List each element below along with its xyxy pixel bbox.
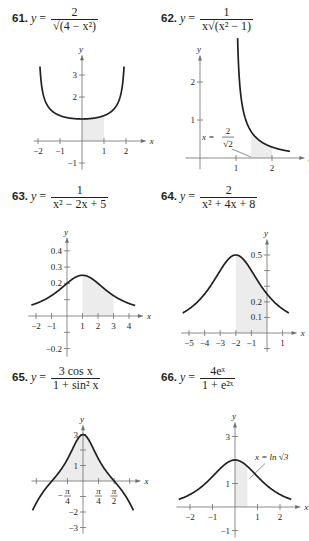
y-tick-label: 0.4 bbox=[51, 246, 63, 256]
y-tick-label: −2 bbox=[68, 507, 78, 517]
y-axis-arrow-icon bbox=[233, 422, 237, 427]
annotation-label: x = bbox=[201, 132, 214, 142]
problem-64: 64. y = 2x² + 4x + 8 xy−5−4−3−2−110.10.2… bbox=[155, 175, 309, 360]
annotation-label: √2 bbox=[223, 139, 232, 149]
x-axis-label: x bbox=[146, 311, 151, 321]
x-axis-arrow-icon bbox=[299, 156, 304, 160]
x-tick-label: −3 bbox=[215, 338, 225, 348]
x-tick-label: 2 bbox=[124, 146, 129, 156]
y-tick-label: −3 bbox=[68, 523, 78, 533]
x-tick-label: π bbox=[65, 486, 70, 496]
problem-66: 66. y = 4eˣ1 + e²ˣ xy−2−112−113x = ln √3 bbox=[155, 360, 309, 541]
problem-62: 62. y = 1x√(x² − 1) xy1212x =2√2 bbox=[155, 0, 309, 175]
y-tick-label: 3 bbox=[73, 70, 78, 80]
graph-63: xy−2−11234−0.20.20.30.4 bbox=[0, 175, 155, 360]
x-tick-label: 2 bbox=[112, 496, 117, 506]
annotation-label: 2 bbox=[226, 126, 231, 136]
x-axis-arrow-icon bbox=[141, 139, 146, 143]
x-tick-label: −5 bbox=[184, 338, 194, 348]
graph-61: xy−2−112−123 bbox=[0, 0, 155, 175]
y-axis-label: y bbox=[263, 228, 268, 238]
y-axis-label: y bbox=[79, 414, 84, 424]
graph-66: xy−2−112−113x = ln √3 bbox=[155, 360, 309, 541]
x-tick-label: 4 bbox=[127, 321, 132, 331]
y-tick-label: 0.2 bbox=[51, 278, 62, 288]
x-tick-label: 1 bbox=[234, 163, 239, 173]
x-tick-label: 1 bbox=[255, 512, 260, 522]
problem-61: 61. y = 2√(4 − x²) xy−2−112−123 bbox=[0, 0, 155, 175]
x-tick-label: 1 bbox=[80, 321, 85, 331]
y-axis-label: y bbox=[231, 411, 236, 421]
y-axis-arrow-icon bbox=[80, 55, 84, 60]
x-axis-arrow-icon bbox=[292, 331, 297, 335]
y-tick-label: 0.3 bbox=[51, 262, 63, 272]
y-axis-label: y bbox=[63, 227, 68, 237]
y-tick-label: 2 bbox=[73, 92, 78, 102]
x-axis-arrow-icon bbox=[135, 479, 140, 483]
x-tick-label: 1 bbox=[280, 338, 285, 348]
graph-62: xy1212x =2√2 bbox=[155, 0, 309, 175]
x-axis-label: x bbox=[303, 502, 308, 512]
x-tick-label: −2 bbox=[185, 512, 195, 522]
annotation-leader bbox=[232, 149, 251, 157]
function-curve bbox=[183, 255, 289, 313]
x-tick-label: 2 bbox=[270, 163, 275, 173]
y-tick-label: 2 bbox=[191, 77, 196, 87]
problem-63: 63. y = 1x² − 2x + 5 xy−2−11234−0.20.20.… bbox=[0, 175, 155, 360]
x-tick-label: −2 bbox=[231, 338, 241, 348]
x-tick-label: π bbox=[96, 486, 101, 496]
x-tick-label: −2 bbox=[31, 321, 41, 331]
x-tick-label: 1 bbox=[102, 146, 107, 156]
x-tick-label: −1 bbox=[208, 512, 218, 522]
x-axis-arrow-icon bbox=[295, 505, 300, 509]
x-axis-label: x bbox=[307, 153, 309, 163]
x-tick-label: −2 bbox=[33, 146, 43, 156]
x-axis-label: x bbox=[143, 476, 148, 486]
x-tick-label: −4 bbox=[200, 338, 210, 348]
y-tick-label: −1 bbox=[67, 158, 77, 168]
y-tick-label: 0.2 bbox=[251, 297, 262, 307]
shaded-region bbox=[83, 275, 114, 316]
y-tick-label: −0.2 bbox=[46, 344, 62, 354]
y-axis-arrow-icon bbox=[65, 238, 69, 243]
x-tick-label: −1 bbox=[55, 146, 65, 156]
x-axis-arrow-icon bbox=[138, 314, 143, 318]
x-tick-label: − bbox=[57, 490, 62, 500]
x-tick-label: 4 bbox=[65, 496, 70, 506]
y-tick-label: 0.1 bbox=[251, 312, 262, 322]
y-axis-label: y bbox=[196, 44, 201, 54]
y-axis-label: y bbox=[78, 44, 83, 54]
annotation-label: x = ln √3 bbox=[254, 452, 289, 462]
function-curve bbox=[238, 38, 290, 151]
x-tick-label: 3 bbox=[111, 321, 116, 331]
y-tick-label: 1 bbox=[74, 461, 79, 471]
y-axis-arrow-icon bbox=[265, 239, 269, 244]
y-tick-label: −1 bbox=[220, 526, 230, 536]
x-tick-label: π bbox=[112, 486, 117, 496]
graph-65: xy−π4π4π2−3−213 bbox=[0, 360, 155, 541]
y-tick-label: 3 bbox=[226, 432, 231, 442]
x-tick-label: 4 bbox=[96, 496, 101, 506]
x-axis-label: x bbox=[149, 136, 154, 146]
y-axis-arrow-icon bbox=[198, 55, 202, 60]
x-axis-label: x bbox=[300, 328, 305, 338]
x-tick-label: 2 bbox=[96, 321, 101, 331]
y-tick-label: 1 bbox=[226, 479, 231, 489]
problem-65: 65. y = 3 cos x1 + sin² x xy−π4π4π2−3−21… bbox=[0, 360, 155, 541]
x-tick-label: −1 bbox=[47, 321, 57, 331]
x-tick-label: −1 bbox=[247, 338, 257, 348]
y-tick-label: 1 bbox=[191, 115, 196, 125]
y-tick-label: 0.5 bbox=[251, 250, 263, 260]
x-tick-label: 2 bbox=[278, 512, 283, 522]
graph-64: xy−5−4−3−2−110.10.20.5 bbox=[155, 175, 309, 360]
y-axis-arrow-icon bbox=[81, 425, 85, 430]
